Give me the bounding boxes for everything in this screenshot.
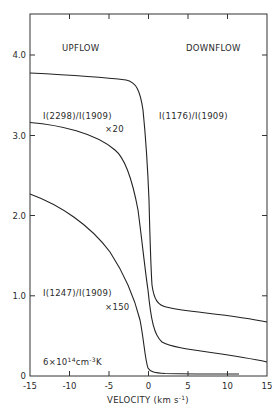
curve-1247 bbox=[30, 194, 239, 374]
x-tick-m5: -5 bbox=[105, 381, 113, 391]
series-2298-scale: ×20 bbox=[105, 124, 124, 134]
x-axis-label: VELOCITY (km s-1) bbox=[107, 394, 189, 405]
x-tick-10: 10 bbox=[222, 381, 233, 391]
curve-2298 bbox=[30, 123, 267, 363]
upflow-label: UPFLOW bbox=[62, 43, 100, 53]
downflow-label: DOWNFLOW bbox=[186, 43, 241, 53]
x-tick-0: 0 bbox=[146, 381, 151, 391]
y-tick-2: 2.0 bbox=[12, 211, 26, 221]
x-tick-15: 15 bbox=[262, 381, 273, 391]
x-tick-5: 5 bbox=[185, 381, 190, 391]
y-ticks-right bbox=[262, 55, 267, 296]
y-tick-4: 4.0 bbox=[12, 50, 26, 60]
y-ticks-left bbox=[30, 55, 35, 296]
series-1176-label: I(1176)/I(1909) bbox=[159, 111, 228, 121]
x-tick-m10: -10 bbox=[63, 381, 77, 391]
condition-label: 6×1014cm-3K bbox=[43, 356, 102, 367]
y-tick-0: 0 bbox=[21, 371, 26, 381]
series-1247-scale: ×150 bbox=[105, 302, 130, 312]
x-tick-m15: -15 bbox=[23, 381, 37, 391]
y-tick-3: 3.0 bbox=[12, 131, 26, 141]
series-1247-label: I(1247)/I(1909) bbox=[43, 288, 112, 298]
y-tick-1: 1.0 bbox=[12, 291, 26, 301]
chart-svg: 4.0 3.0 2.0 1.0 0 -15 -10 -5 0 5 10 15 V… bbox=[0, 0, 280, 411]
x-ticks-top bbox=[70, 14, 228, 19]
series-2298-label: I(2298)/I(1909) bbox=[43, 111, 112, 121]
